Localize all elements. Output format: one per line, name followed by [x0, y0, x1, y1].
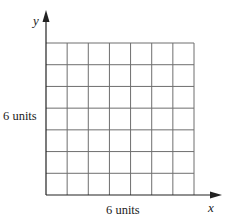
x-axis-label: x: [208, 201, 214, 214]
height-dimension-label: 6 units: [3, 110, 37, 123]
y-axis-arrow-icon: [43, 10, 50, 22]
y-axis-label: y: [33, 14, 39, 27]
width-dimension-label: 6 units: [106, 204, 140, 217]
x-axis-arrow-icon: [210, 192, 222, 199]
grid-diagram: y x 6 units 6 units: [0, 0, 230, 222]
